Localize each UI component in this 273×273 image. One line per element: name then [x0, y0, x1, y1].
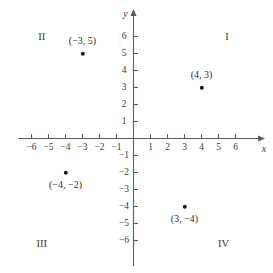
y-tick-label-6: 6 — [122, 32, 127, 42]
y-tick-label--5: −5 — [119, 219, 129, 229]
y-tick-label-2: 2 — [122, 100, 127, 110]
x-axis-arrow — [258, 135, 265, 141]
x-tick-label--4: −4 — [60, 143, 70, 153]
y-tick-label--2: −2 — [119, 168, 129, 178]
x-axis-group — [18, 135, 265, 141]
y-axis-group — [130, 9, 136, 266]
x-tick-label-6: 6 — [233, 143, 238, 153]
y-tick-label-3: 3 — [122, 83, 127, 93]
data-point-label-3: (3, −4) — [171, 214, 198, 224]
quadrant-label-I: I — [225, 31, 229, 42]
coordinate-plane-figure: −6−5−4−3−2−1123456654321−1−2−3−4−5−6xyII… — [0, 0, 273, 273]
data-point-label-1: (4, 3) — [191, 70, 213, 80]
x-tick-label-2: 2 — [165, 143, 170, 153]
y-tick-label-4: 4 — [122, 66, 127, 76]
y-axis-arrow — [130, 9, 136, 16]
x-tick-label-5: 5 — [216, 143, 221, 153]
x-tick-label--2: −2 — [94, 143, 104, 153]
y-tick-label-1: 1 — [122, 117, 127, 127]
x-tick-label--6: −6 — [26, 143, 36, 153]
quadrant-label-III: III — [36, 239, 47, 250]
x-axis-name: x — [262, 144, 266, 154]
y-tick-label--3: −3 — [119, 185, 129, 195]
y-tick-label-5: 5 — [122, 49, 127, 59]
data-point-label-2: (−4, −2) — [49, 180, 82, 190]
y-tick-label--4: −4 — [119, 202, 129, 212]
quadrant-label-II: II — [38, 31, 45, 42]
x-tick-label--5: −5 — [43, 143, 53, 153]
x-tick-label--3: −3 — [77, 143, 87, 153]
x-tick-label-1: 1 — [148, 143, 153, 153]
y-tick-label--1: −1 — [119, 151, 129, 161]
x-tick-label-3: 3 — [182, 143, 187, 153]
y-tick-label--6: −6 — [119, 236, 129, 246]
y-axis-name: y — [123, 9, 127, 19]
quadrant-label-IV: IV — [218, 239, 229, 250]
data-point-label-0: (−3, 5) — [69, 36, 96, 46]
x-tick-label-4: 4 — [199, 143, 204, 153]
